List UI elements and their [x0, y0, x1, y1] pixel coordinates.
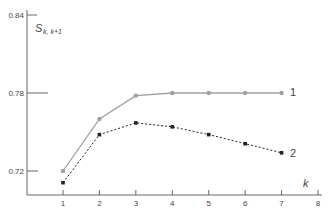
series-2-marker [207, 133, 211, 137]
series-2-marker [243, 142, 247, 146]
series-1-marker [207, 91, 211, 95]
series-1-marker [279, 91, 283, 95]
y-axis-title-subscript: k, k+1 [43, 28, 62, 35]
x-ticks: 12345678 [61, 190, 321, 208]
series-2-label: 2 [290, 147, 296, 159]
x-axis-title: k [303, 177, 309, 189]
x-tick-label: 1 [61, 199, 66, 208]
x-tick-label: 7 [279, 199, 284, 208]
x-tick-label: 5 [206, 199, 211, 208]
x-tick-label: 6 [243, 199, 248, 208]
x-tick-label: 8 [316, 199, 321, 208]
series-1-marker [134, 93, 138, 97]
y-axis-title: S [35, 22, 43, 34]
line-chart: 0.84 0.78 0.72 S k, k+1 12345678 k 1 2 [0, 0, 328, 213]
y-tick-label: 0.84 [8, 11, 24, 20]
x-tick-label: 4 [170, 199, 175, 208]
series-2-line [63, 123, 282, 183]
series-2-marker [280, 151, 284, 155]
series-1-marker [61, 169, 65, 173]
series-2-marker [98, 133, 102, 137]
series-1-label: 1 [290, 86, 296, 98]
series-1-marker [97, 117, 101, 121]
y-tick-label: 0.72 [8, 167, 24, 176]
x-tick-label: 2 [97, 199, 102, 208]
series-1-line [63, 93, 282, 171]
series-2-marker [61, 181, 65, 185]
series-1-marker [170, 91, 174, 95]
y-tick-label: 0.78 [8, 89, 24, 98]
series-2-marker [134, 121, 138, 125]
series-1-marker [243, 91, 247, 95]
series-group [61, 91, 284, 185]
x-tick-label: 3 [134, 199, 139, 208]
series-2-marker [170, 125, 174, 129]
